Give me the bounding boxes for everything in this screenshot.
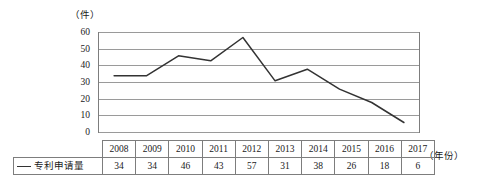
y-tick-label: 60 — [81, 27, 91, 37]
legend-series-label: 专利申请量 — [34, 159, 84, 173]
table-cell-value: 31 — [268, 158, 301, 175]
y-axis-unit-label: （件） — [70, 9, 100, 21]
y-tick-label: 0 — [85, 127, 90, 137]
table-cell-year: 2016 — [368, 141, 401, 158]
y-tick-label: 20 — [81, 94, 91, 104]
table-cell-year: 2015 — [335, 141, 368, 158]
gridlines — [98, 33, 420, 133]
y-tick-label: 40 — [81, 60, 91, 70]
table-cell-year: 2010 — [169, 141, 202, 158]
y-axis: 60 50 40 30 20 10 0 — [62, 32, 94, 132]
plot-area — [98, 32, 420, 132]
table-cell-year: 2012 — [235, 141, 268, 158]
y-tick-label: 30 — [81, 77, 91, 87]
table-cell-value: 34 — [103, 158, 136, 175]
table-cell-value: 43 — [202, 158, 235, 175]
table-cell-value: 6 — [401, 158, 434, 175]
table-cell-year: 2013 — [268, 141, 301, 158]
table-cell-value: 38 — [302, 158, 335, 175]
y-tick-label: 50 — [81, 44, 91, 54]
table-cell-value: 18 — [368, 158, 401, 175]
data-table: 2008 2009 2010 2011 2012 2013 2014 2015 … — [13, 140, 435, 175]
table-row-values: 专利申请量 34 34 46 43 57 31 38 26 18 6 — [14, 158, 435, 175]
table-row-years: 2008 2009 2010 2011 2012 2013 2014 2015 … — [14, 141, 435, 158]
legend-series-label-cell: 专利申请量 — [14, 158, 103, 175]
table-cell-value: 46 — [169, 158, 202, 175]
series-line-patent-applications — [114, 38, 404, 123]
table-cell-year: 2011 — [202, 141, 235, 158]
y-tick-label: 10 — [81, 110, 91, 120]
table-cell-value: 34 — [136, 158, 169, 175]
table-corner-spacer — [14, 141, 103, 158]
plot-svg — [98, 32, 420, 133]
table-cell-year: 2017 — [401, 141, 434, 158]
table-cell-year: 2009 — [136, 141, 169, 158]
table-cell-year: 2008 — [103, 141, 136, 158]
table-cell-year: 2014 — [302, 141, 335, 158]
table-cell-value: 57 — [235, 158, 268, 175]
legend-line-icon — [17, 166, 31, 167]
table-cell-value: 26 — [335, 158, 368, 175]
patent-application-line-chart: （件） 60 50 40 30 20 10 0 — [0, 0, 481, 194]
